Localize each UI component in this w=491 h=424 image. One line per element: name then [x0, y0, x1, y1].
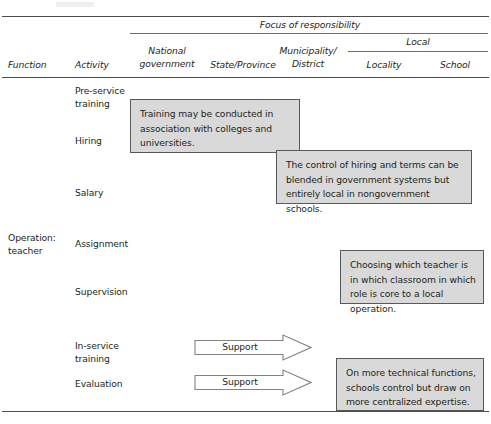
callout-technical-functions: On more technical functions, schools con…	[336, 358, 484, 411]
column-group-header-local: Local	[348, 36, 488, 49]
arrow-support-in-service-training-label: Support	[198, 341, 282, 353]
responsibility-matrix-figure: Focus of responsibility Local Function A…	[0, 0, 491, 424]
row-activity-salary: Salary	[75, 186, 103, 199]
arrow-support-evaluation-label: Support	[198, 376, 282, 388]
callout-hiring-control: The control of hiring and terms can be b…	[276, 150, 472, 204]
spanner-rule-focus-of-responsibility	[130, 33, 488, 34]
row-activity-hiring: Hiring	[75, 134, 102, 147]
row-function-operation-teacher: Operation: teacher	[8, 231, 56, 257]
arrow-support-in-service-training: Support	[194, 334, 312, 361]
table-top-rule	[2, 16, 489, 17]
table-bottom-rule	[2, 411, 489, 412]
callout-training-colleges-text: Training may be conducted in association…	[140, 107, 292, 151]
scan-artifact	[56, 2, 94, 7]
column-header-municipality-district: Municipality/ District	[268, 45, 348, 70]
column-header-activity: Activity	[75, 59, 109, 72]
row-activity-supervision: Supervision	[75, 285, 128, 298]
row-activity-assignment: Assignment	[75, 237, 128, 250]
row-activity-pre-service-training: Pre-service training	[75, 84, 125, 110]
row-activity-in-service-training: In-service training	[75, 339, 119, 365]
column-header-locality: Locality	[348, 59, 420, 72]
row-activity-evaluation: Evaluation	[75, 377, 122, 390]
callout-training-colleges: Training may be conducted in association…	[130, 99, 300, 153]
column-header-national-government: National government	[128, 45, 206, 70]
callout-hiring-control-text: The control of hiring and terms can be b…	[286, 158, 464, 216]
callout-teacher-assignment: Choosing which teacher is in which class…	[340, 250, 484, 304]
column-group-header-focus-of-responsibility: Focus of responsibility	[228, 19, 392, 32]
callout-technical-functions-text: On more technical functions, schools con…	[346, 366, 476, 410]
arrow-support-evaluation: Support	[194, 369, 312, 396]
column-header-school: School	[425, 59, 485, 72]
callout-teacher-assignment-text: Choosing which teacher is in which class…	[350, 258, 476, 316]
column-header-function: Function	[8, 59, 46, 72]
header-bottom-rule	[2, 77, 489, 78]
spanner-rule-local	[348, 51, 488, 52]
